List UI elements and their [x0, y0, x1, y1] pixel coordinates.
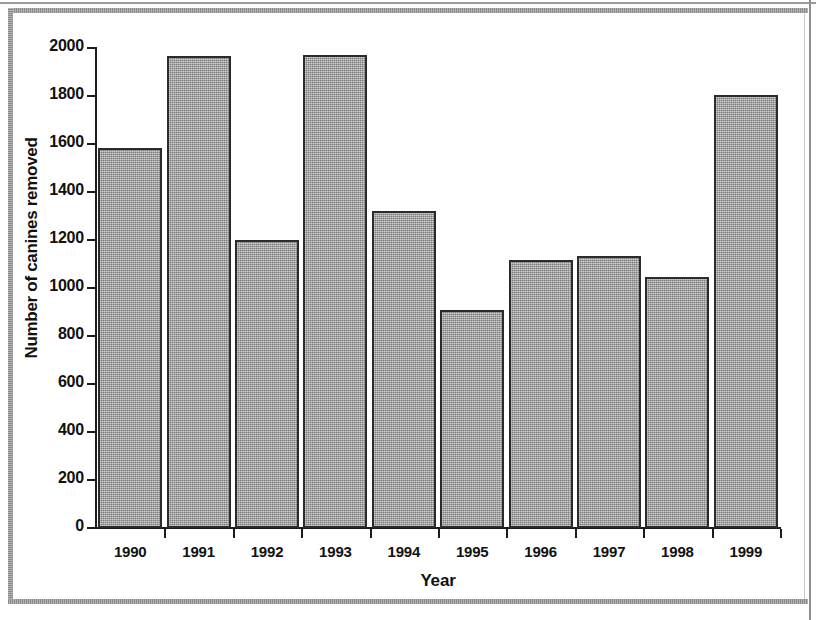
y-axis-tick [87, 47, 96, 49]
bar [167, 56, 231, 528]
scanned-page: 0200400600800100012001400160018002000 19… [0, 0, 816, 620]
bar [372, 211, 436, 528]
y-axis-tick [87, 383, 96, 385]
plot-area [96, 48, 780, 528]
x-axis-tick [643, 529, 645, 538]
y-axis-tick [87, 287, 96, 289]
bar [440, 310, 504, 528]
bar [509, 260, 573, 528]
bar-chart: 0200400600800100012001400160018002000 19… [0, 0, 816, 620]
x-axis-tick [164, 529, 166, 538]
y-axis-tick-label: 200 [10, 469, 84, 487]
y-axis-tick [87, 143, 96, 145]
bar [235, 240, 299, 528]
bar [714, 95, 778, 528]
y-axis-tick [87, 239, 96, 241]
y-axis-tick [87, 95, 96, 97]
bar [645, 277, 709, 528]
bar [98, 148, 162, 528]
x-axis-tick-label: 1999 [701, 543, 791, 560]
y-axis-tick [87, 431, 96, 433]
x-axis-tick [370, 529, 372, 538]
y-axis-tick [87, 527, 96, 529]
y-axis-tick [87, 335, 96, 337]
y-axis-tick [87, 479, 96, 481]
x-axis-tick [233, 529, 235, 538]
x-axis-tick [780, 529, 782, 538]
x-axis-tick [506, 529, 508, 538]
x-axis-tick [712, 529, 714, 538]
x-axis-tick [438, 529, 440, 538]
y-axis-tick [87, 191, 96, 193]
y-axis-tick-label: 0 [10, 517, 84, 535]
x-axis-tick [575, 529, 577, 538]
bar [577, 256, 641, 528]
bar [303, 55, 367, 528]
x-axis-title: Year [96, 571, 780, 591]
y-axis-title: Number of canines removed [22, 38, 42, 458]
x-axis-tick [301, 529, 303, 538]
